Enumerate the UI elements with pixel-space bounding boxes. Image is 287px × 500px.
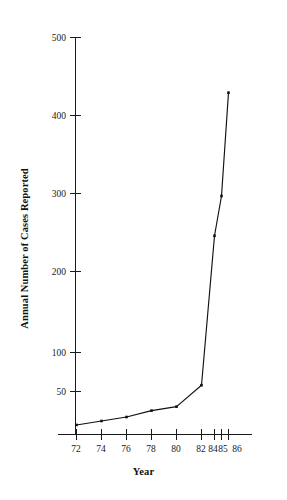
y-tick-label-200: 200: [52, 267, 67, 277]
chart-figure: 500 400 300 200 100 50 72: [0, 0, 287, 500]
y-tick-label-500: 500: [52, 33, 67, 43]
data-point-82: [200, 384, 203, 387]
data-point-85: [220, 195, 223, 198]
x-axis-title: Year: [0, 466, 287, 477]
data-point-74: [100, 420, 103, 423]
x-axis-tick-labels: 72 74 76 78 80 82 84 85 86: [71, 444, 242, 454]
y-tick-label-100: 100: [52, 348, 67, 358]
y-tick-label-400: 400: [52, 111, 67, 121]
x-tick-label-80: 80: [171, 444, 181, 454]
y-tick-label-300: 300: [52, 189, 67, 199]
x-axis: 72 74 76 78 80 82 84 85 86: [58, 429, 252, 454]
data-point-80: [175, 405, 178, 408]
x-tick-label-78: 78: [146, 444, 156, 454]
x-tick-label-72: 72: [71, 444, 81, 454]
data-series-markers: [75, 91, 230, 426]
y-axis-title: Annual Number of Cases Reported: [19, 149, 30, 349]
y-axis-tick-labels: 500 400 300 200 100 50: [52, 33, 67, 397]
line-chart-plot: 500 400 300 200 100 50 72: [0, 0, 287, 500]
x-tick-label-85: 85: [218, 444, 228, 454]
y-tick-label-50: 50: [57, 387, 67, 397]
data-point-78: [150, 409, 153, 412]
data-point-86: [227, 91, 230, 94]
x-tick-label-76: 76: [121, 444, 131, 454]
x-tick-label-86: 86: [232, 444, 242, 454]
data-point-84: [213, 234, 216, 237]
x-tick-label-82: 82: [196, 444, 206, 454]
data-series-group: [75, 91, 230, 426]
x-tick-label-74: 74: [96, 444, 106, 454]
data-point-72: [75, 424, 78, 427]
y-axis: 500 400 300 200 100 50: [52, 33, 81, 434]
x-tick-label-84: 84: [208, 444, 218, 454]
data-point-76: [125, 416, 128, 419]
data-series-line: [77, 93, 229, 425]
